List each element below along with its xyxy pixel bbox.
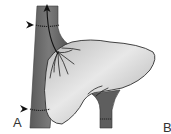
label-b: B [163,121,171,134]
label-a: A [13,116,22,129]
arrowhead-upper-icon [26,21,34,29]
liver-vena-cava-diagram [0,0,171,134]
arrowhead-lower-icon [20,105,28,113]
